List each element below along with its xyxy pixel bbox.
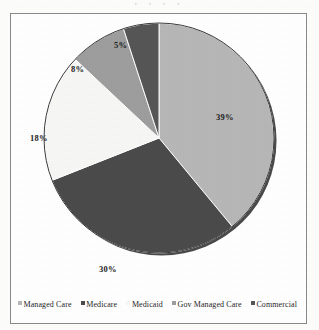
- pie-chart-plot-area: 39% 30% 18% 8% 5%: [11, 14, 306, 291]
- legend-item[interactable]: Medicare: [81, 300, 118, 310]
- slice-label-medicare: 30%: [99, 264, 117, 274]
- chart-frame: 39% 30% 18% 8% 5% Managed CareMedicareMe…: [10, 13, 307, 324]
- legend-swatch-icon: [81, 301, 85, 305]
- legend-item-label: Gov Managed Care: [178, 300, 242, 310]
- slice-label-gov-managed-care: 8%: [71, 64, 84, 74]
- scan-bleed-artifact: ▪ ▪ ▪ ▪: [0, 0, 319, 11]
- legend-item[interactable]: Managed Care: [18, 300, 72, 310]
- legend-item-label: Medicare: [86, 300, 117, 310]
- slice-label-managed-care: 39%: [216, 112, 234, 122]
- slice-label-commercial: 5%: [114, 40, 127, 50]
- legend-item-label: Medicaid: [132, 300, 163, 310]
- legend-item-label: Managed Care: [24, 300, 72, 310]
- pie-chart: [42, 21, 278, 257]
- legend-swatch-icon: [18, 301, 22, 305]
- chart-legend: Managed CareMedicareMedicaidGov Managed …: [12, 293, 305, 317]
- legend-item[interactable]: Commercial: [251, 300, 297, 310]
- pie-svg: [42, 21, 278, 257]
- scanned-figure-page: ▪ ▪ ▪ ▪ 39% 30% 18% 8% 5% Managed CareMe…: [0, 0, 319, 330]
- legend-item-label: Commercial: [256, 300, 297, 310]
- legend-swatch-icon: [126, 301, 130, 305]
- legend-item[interactable]: Gov Managed Care: [172, 300, 242, 310]
- legend-swatch-icon: [172, 301, 176, 305]
- slice-label-medicaid: 18%: [30, 133, 48, 143]
- legend-item[interactable]: Medicaid: [126, 300, 163, 310]
- legend-swatch-icon: [251, 301, 255, 305]
